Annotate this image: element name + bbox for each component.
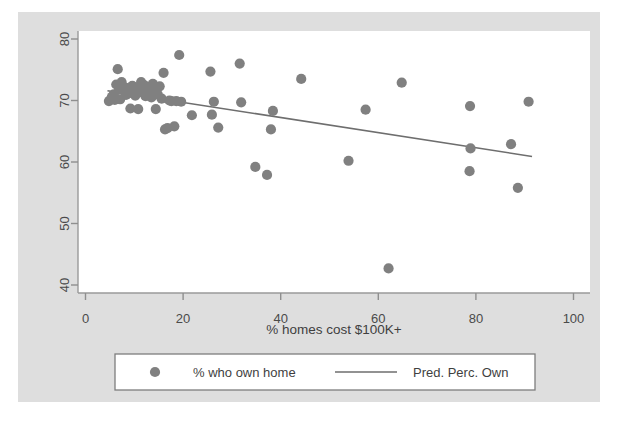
y-tick-label: 40 — [57, 278, 72, 292]
legend-label-line: Pred. Perc. Own — [413, 365, 508, 380]
figure-container: 4050607080 020406080100 % homes cost $10… — [0, 0, 617, 423]
scatter-point — [383, 263, 393, 273]
plot-area-background — [78, 31, 590, 293]
legend-label-scatter: % who own home — [193, 365, 296, 380]
scatter-point — [155, 81, 165, 91]
scatter-point — [236, 97, 246, 107]
y-tick-label: 50 — [57, 216, 72, 230]
scatter-point — [250, 162, 260, 172]
x-axis-title-text: % homes cost $100K+ — [266, 322, 402, 337]
y-axis: 4050607080 — [57, 31, 79, 293]
y-tick-label: 70 — [57, 93, 72, 107]
scatter-point — [465, 143, 475, 153]
scatter-plot: 4050607080 020406080100 % homes cost $10… — [0, 0, 617, 423]
scatter-point — [213, 122, 223, 132]
scatter-point — [513, 183, 523, 193]
scatter-point — [524, 97, 534, 107]
y-tick-label: 80 — [57, 32, 72, 46]
scatter-point — [151, 104, 161, 114]
x-tick-label: 0 — [82, 311, 89, 326]
scatter-point — [174, 50, 184, 60]
scatter-point — [262, 170, 272, 180]
scatter-point — [343, 156, 353, 166]
legend-circle-marker-icon — [150, 367, 160, 377]
scatter-point — [209, 97, 219, 107]
scatter-point — [235, 59, 245, 69]
scatter-point — [296, 74, 306, 84]
scatter-point — [158, 68, 168, 78]
scatter-point — [133, 104, 143, 114]
legend-box: % who own homePred. Perc. Own — [115, 354, 535, 390]
x-tick-label: 80 — [469, 311, 483, 326]
scatter-point — [464, 166, 474, 176]
scatter-point — [187, 110, 197, 120]
scatter-point — [268, 106, 278, 116]
scatter-point — [207, 110, 217, 120]
scatter-point — [176, 97, 186, 107]
scatter-point — [506, 139, 516, 149]
scatter-point — [266, 124, 276, 134]
scatter-point — [205, 66, 215, 76]
scatter-point — [361, 105, 371, 115]
x-tick-label: 20 — [176, 311, 190, 326]
scatter-point — [397, 78, 407, 88]
x-tick-label: 100 — [563, 311, 585, 326]
y-tick-label: 60 — [57, 155, 72, 169]
scatter-point — [465, 101, 475, 111]
scatter-point — [169, 121, 179, 131]
scatter-point — [113, 64, 123, 74]
x-axis-title: % homes cost $100K+ — [266, 322, 402, 337]
